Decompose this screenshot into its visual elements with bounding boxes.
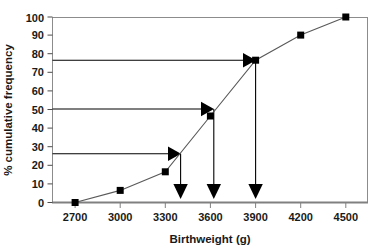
lower-quartile-guide-arrow bbox=[53, 147, 182, 161]
y-tick-label-20: 20 bbox=[32, 159, 44, 171]
data-point-3900 bbox=[252, 57, 259, 64]
x-tick-label-4500: 4500 bbox=[334, 211, 358, 223]
median-drop-arrow bbox=[207, 109, 221, 199]
upper-quartile-drop-arrowhead-icon bbox=[248, 184, 262, 199]
x-axis-title: Birthweight (g) bbox=[169, 233, 250, 245]
upper-quartile-guide-arrow bbox=[53, 53, 257, 67]
lower-quartile-guide-arrowhead-icon bbox=[168, 147, 181, 161]
y-tick-label-0: 0 bbox=[38, 197, 44, 209]
y-axis-title: % cumulative frequency bbox=[2, 44, 14, 176]
horizontal-guide-arrows bbox=[53, 53, 257, 161]
y-tick-label-60: 60 bbox=[32, 85, 44, 97]
cumulative-frequency-chart: 0 10 20 30 40 50 60 70 80 90 100 2700 30… bbox=[0, 0, 383, 252]
x-tick-label-3000: 3000 bbox=[108, 211, 132, 223]
y-tick-label-40: 40 bbox=[32, 122, 44, 134]
x-tick-label-3300: 3300 bbox=[153, 211, 177, 223]
lower-quartile-drop-arrowhead-icon bbox=[173, 184, 187, 199]
x-axis-tick-labels: 2700 3000 3300 3600 3900 4200 4500 bbox=[63, 211, 358, 223]
median-drop-arrowhead-icon bbox=[207, 184, 221, 199]
y-tick-label-90: 90 bbox=[32, 29, 44, 41]
data-point-3600 bbox=[207, 113, 214, 120]
y-tick-label-80: 80 bbox=[32, 48, 44, 60]
y-tick-label-70: 70 bbox=[32, 66, 44, 78]
y-axis-ticks bbox=[48, 17, 53, 203]
vertical-drop-arrows bbox=[173, 60, 262, 199]
y-axis-tick-labels: 0 10 20 30 40 50 60 70 80 90 100 bbox=[26, 12, 44, 209]
x-tick-label-4200: 4200 bbox=[288, 211, 312, 223]
x-tick-label-2700: 2700 bbox=[63, 211, 87, 223]
x-tick-label-3900: 3900 bbox=[243, 211, 267, 223]
lower-quartile-drop-arrow bbox=[173, 154, 187, 199]
data-point-4500 bbox=[342, 14, 349, 21]
upper-quartile-drop-arrow bbox=[248, 60, 262, 199]
y-tick-label-50: 50 bbox=[32, 104, 44, 116]
y-tick-label-30: 30 bbox=[32, 141, 44, 153]
x-tick-label-3600: 3600 bbox=[198, 211, 222, 223]
y-tick-label-10: 10 bbox=[32, 178, 44, 190]
data-point-3300 bbox=[162, 168, 169, 175]
data-point-3000 bbox=[117, 187, 124, 194]
y-tick-label-100: 100 bbox=[26, 12, 44, 24]
chart-canvas: 0 10 20 30 40 50 60 70 80 90 100 2700 30… bbox=[0, 0, 383, 252]
x-axis-ticks bbox=[75, 203, 346, 208]
data-point-2700 bbox=[72, 199, 79, 206]
median-guide-arrow bbox=[53, 102, 215, 116]
data-point-4200 bbox=[297, 32, 304, 39]
